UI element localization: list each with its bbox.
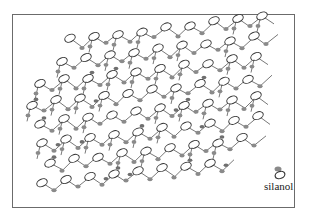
silicon-atom [151, 43, 164, 54]
oxygen-atom [116, 161, 121, 165]
oxygen-atom [140, 159, 145, 163]
silicon-atom [183, 20, 196, 31]
oxygen-atom [250, 65, 255, 69]
silicon-atom [155, 122, 168, 133]
oxygen-atom [137, 98, 142, 102]
oxygen-atom [99, 183, 104, 187]
oxygen-atom [171, 175, 176, 179]
oxygen-atom [217, 68, 222, 72]
oxygen-atom [75, 146, 80, 150]
oxygen-atom [51, 188, 56, 192]
oxygen-atom [239, 46, 244, 50]
silicon-atom [135, 27, 148, 38]
silanol-hydroxyl [188, 158, 193, 162]
oxygen-atom [136, 40, 141, 44]
oxygen-atom [243, 125, 248, 129]
silicon-atom [201, 58, 214, 69]
oxygen-atom [71, 66, 76, 70]
oxygen-atom [106, 83, 111, 87]
oxygen-atom [99, 143, 104, 147]
oxygen-atom [26, 113, 31, 117]
silicon-atom [33, 78, 46, 89]
silicon-atom [33, 118, 46, 129]
oxygen-atom [263, 42, 268, 46]
oxygen-atom [224, 49, 229, 53]
oxygen-atom [219, 169, 224, 173]
silicon-atom [211, 137, 224, 148]
bond [260, 75, 272, 86]
oxygen-atom [179, 153, 184, 157]
oxygen-atom [193, 70, 198, 74]
oxygen-atom [36, 151, 41, 155]
silicon-atom [241, 74, 254, 85]
oxygen-atom [241, 66, 246, 70]
oxygen-atom [108, 143, 113, 147]
oxygen-atom [226, 108, 231, 112]
oxygen-atom [215, 48, 220, 52]
oxygen-atom [132, 140, 137, 144]
silicon-atom [59, 133, 72, 144]
silanol-hydroxyl [186, 98, 191, 102]
silicon-atom [25, 100, 38, 111]
oxygen-atom [73, 86, 78, 90]
oxygen-atom [60, 147, 65, 151]
oxygen-atom [121, 81, 126, 85]
oxygen-atom [169, 76, 174, 80]
oxygen-atom [226, 67, 231, 71]
oxygen-atom [178, 114, 183, 118]
silicon-atom [35, 177, 48, 188]
silanol-hydroxyl [128, 173, 133, 177]
oxygen-atom [154, 116, 159, 120]
oxygen-atom [212, 151, 217, 155]
oxygen-atom [178, 72, 183, 76]
oxygen-atom [97, 83, 102, 87]
oxygen-atom [219, 129, 224, 133]
oxygen-atom [156, 135, 161, 139]
oxygen-atom [59, 169, 64, 173]
oxygen-atom [218, 89, 223, 93]
silicon-atom [203, 118, 216, 129]
oxygen-atom [95, 63, 100, 67]
oxygen-atom [107, 162, 112, 166]
oxygen-atom [104, 63, 109, 67]
oxygen-atom [233, 86, 238, 90]
oxygen-atom [241, 107, 246, 111]
oxygen-atom [209, 91, 214, 95]
silicon-atom [127, 47, 140, 58]
oxygen-atom [58, 87, 63, 91]
oxygen-atom [145, 117, 150, 121]
silicon-atom [225, 53, 238, 64]
silicon-atom [105, 109, 118, 120]
silicon-atom [63, 33, 76, 44]
silicon-atom [91, 152, 104, 163]
oxygen-atom [251, 144, 256, 148]
oxygen-atom [256, 24, 261, 28]
oxygen-atom [103, 41, 108, 45]
silicon-atom [145, 83, 158, 94]
oxygen-atom [223, 27, 228, 31]
silicon-atom [67, 153, 80, 164]
silicon-atom [169, 82, 182, 93]
oxygen-atom [88, 45, 93, 49]
silanol-hydroxyl [34, 98, 39, 102]
oxygen-atom [147, 177, 152, 181]
silanol-hydroxyl [140, 124, 145, 128]
silicon-atom [251, 110, 264, 121]
silicon-atom [111, 29, 124, 40]
oxygen-atom [123, 140, 128, 144]
oxygen-atom [257, 84, 262, 88]
oxygen-atom [199, 31, 204, 35]
oxygen-atom [49, 129, 54, 133]
legend-label-silanol: silanol [264, 180, 293, 192]
oxygen-atom [195, 172, 200, 176]
silicon-atom [175, 40, 188, 51]
oxygen-atom [123, 179, 128, 183]
silanol-hydroxyl [200, 125, 205, 129]
oxygen-atom [185, 91, 190, 95]
oxygen-atom [82, 125, 87, 129]
silicon-atom [231, 13, 244, 24]
oxygen-atom [147, 137, 152, 141]
silanol-hydroxyl [116, 166, 121, 170]
silicon-atom [177, 59, 190, 70]
oxygen-atom [131, 160, 136, 164]
